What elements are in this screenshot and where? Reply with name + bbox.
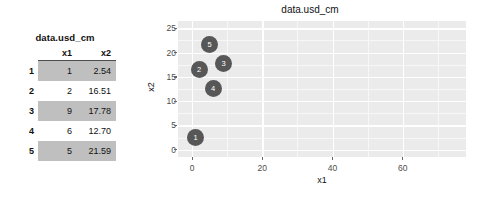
- y-axis-tick-label: 5: [150, 120, 176, 130]
- data-point: 3: [215, 55, 232, 72]
- y-axis-tick-mark: [174, 52, 177, 53]
- gridline-minor-vertical: [227, 21, 228, 157]
- table-row: 3 9 17.78: [18, 101, 116, 121]
- data-point: 5: [201, 36, 218, 53]
- y-axis-tick-mark: [174, 101, 177, 102]
- cell-x1: 2: [38, 81, 77, 101]
- cell-x2: 12.70: [77, 121, 116, 141]
- plot-drawing-area: 12345: [178, 21, 466, 157]
- table-row: 2 2 16.51: [18, 81, 116, 101]
- gridline-major-vertical: [262, 21, 263, 157]
- row-name: 3: [18, 101, 38, 121]
- cell-x1: 9: [38, 101, 77, 121]
- gridline-minor-horizontal: [178, 40, 466, 41]
- column-header-x2: x2: [77, 46, 116, 61]
- table-corner-cell: [18, 46, 38, 61]
- y-axis-tick-label: 25: [150, 23, 176, 33]
- cell-x2: 16.51: [77, 81, 116, 101]
- x-axis-tick-label: 20: [247, 163, 277, 173]
- row-name: 4: [18, 121, 38, 141]
- y-axis-tick-label: 0: [150, 145, 176, 155]
- cell-x2: 2.54: [77, 61, 116, 82]
- table-body: 1 1 2.54 2 2 16.51 3 9 17.78 4 6 12.: [18, 61, 116, 162]
- plot-title: data.usd_cm: [140, 4, 480, 15]
- cell-x2: 17.78: [77, 101, 116, 121]
- figure-root: data.usd_cm x1 x2 1 1 2.54 2 2 16.51: [0, 0, 480, 200]
- scatter-plot-panel: data.usd_cm 12345 0510152025 0204060 x1 …: [140, 0, 480, 200]
- x-axis-tick-mark: [192, 157, 193, 160]
- table-row: 1 1 2.54: [18, 61, 116, 82]
- row-name: 1: [18, 61, 38, 82]
- y-axis-tick-mark: [174, 125, 177, 126]
- y-axis-tick-mark: [174, 149, 177, 150]
- gridline-minor-horizontal: [178, 138, 466, 139]
- table-row: 4 6 12.70: [18, 121, 116, 141]
- x-axis-tick-marks: [178, 157, 466, 161]
- x-axis-tick-mark: [402, 157, 403, 160]
- data-point: 4: [205, 80, 222, 97]
- gridline-major-horizontal: [178, 77, 466, 78]
- x-axis-tick-label: 0: [177, 163, 207, 173]
- gridline-major-horizontal: [178, 28, 466, 29]
- y-axis-title: x2: [146, 57, 156, 117]
- gridline-major-horizontal: [178, 101, 466, 102]
- gridline-major-vertical: [333, 21, 334, 157]
- data-point: 2: [191, 61, 208, 78]
- table-row: 5 5 21.59: [18, 141, 116, 161]
- x-axis-tick-label: 60: [388, 163, 418, 173]
- column-header-x1: x1: [38, 46, 77, 61]
- row-name: 5: [18, 141, 38, 161]
- x-axis-tick-mark: [262, 157, 263, 160]
- gridline-minor-vertical: [368, 21, 369, 157]
- cell-x2: 21.59: [77, 141, 116, 161]
- gridline-major-horizontal: [178, 53, 466, 54]
- gridline-minor-vertical: [297, 21, 298, 157]
- row-name: 2: [18, 81, 38, 101]
- data-point: 1: [187, 129, 204, 146]
- gridline-major-horizontal: [178, 150, 466, 151]
- gridline-major-vertical: [403, 21, 404, 157]
- y-axis-tick-mark: [174, 28, 177, 29]
- gridline-major-horizontal: [178, 125, 466, 126]
- table-header-row: x1 x2: [18, 46, 116, 61]
- table-caption: data.usd_cm: [0, 32, 130, 43]
- gridline-minor-horizontal: [178, 113, 466, 114]
- data-table: x1 x2 1 1 2.54 2 2 16.51 3 9 17.: [18, 46, 116, 161]
- table-header: x1 x2: [18, 46, 116, 61]
- y-axis-tick-mark: [174, 76, 177, 77]
- cell-x1: 1: [38, 61, 77, 82]
- x-axis-title: x1: [178, 175, 466, 185]
- cell-x1: 6: [38, 121, 77, 141]
- x-axis-tick-label: 40: [318, 163, 348, 173]
- y-axis-tick-marks: [174, 21, 178, 157]
- cell-x1: 5: [38, 141, 77, 161]
- x-axis-tick-mark: [332, 157, 333, 160]
- gridline-minor-vertical: [438, 21, 439, 157]
- data-table-panel: data.usd_cm x1 x2 1 1 2.54 2 2 16.51: [0, 0, 140, 200]
